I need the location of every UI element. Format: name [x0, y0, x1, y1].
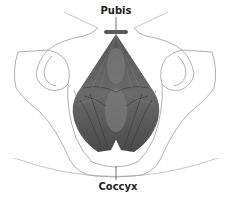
coccyx-label: Coccyx: [88, 181, 148, 192]
pelvic-floor-diagram: [0, 0, 231, 203]
pelvic-floor-muscles: [73, 34, 160, 154]
pubis-bar: [104, 30, 128, 34]
pubis-label: Pubis: [86, 5, 146, 16]
